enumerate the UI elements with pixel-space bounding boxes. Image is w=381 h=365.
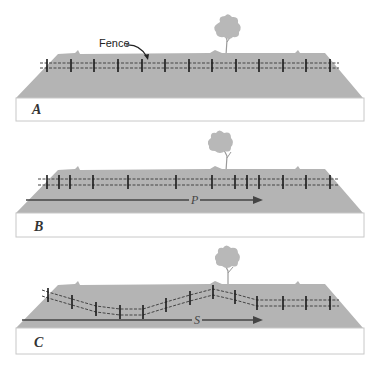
panel-c: S C bbox=[0, 0, 381, 120]
ground-front-face bbox=[16, 328, 364, 354]
panel-c-illustration bbox=[0, 0, 381, 365]
tree-icon bbox=[215, 246, 240, 287]
s-wave-label: S bbox=[192, 314, 202, 326]
panel-letter-c: C bbox=[34, 335, 43, 351]
